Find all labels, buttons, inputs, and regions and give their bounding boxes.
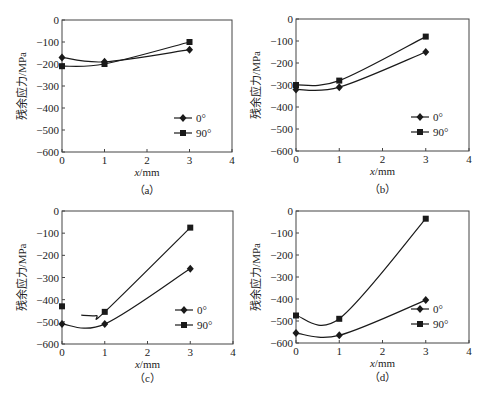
legend-label: 90° [433,318,448,330]
y-tick-label: −300 [270,271,293,283]
panel-label: （c） [134,372,161,384]
legend-item-0deg: 0° [174,112,206,124]
series-0deg [59,46,194,66]
chart-panel-d: 0−100−200−300−400−500−60001234x/mm残余应力/M… [249,205,472,383]
square-marker [336,78,342,84]
square-marker [417,129,423,135]
y-tick-label: −400 [36,294,59,306]
x-axis-label: x/mm [134,358,161,370]
y-tick-label: −100 [36,227,59,239]
y-tick-label: −300 [36,80,59,92]
x-tick-label: 4 [229,154,235,166]
y-tick-label: −500 [270,123,293,135]
y-tick-label: −100 [270,227,293,239]
y-tick-label: −600 [36,146,59,158]
square-marker [102,309,108,315]
y-tick-label: −100 [36,36,59,48]
diamond-marker [181,306,188,314]
square-marker [180,130,186,136]
figure: 0−100−200−300−400−500−60001234x/mm残余应力/M… [0,0,484,399]
y-tick-label: 0 [54,205,60,217]
diamond-marker [336,331,343,339]
x-tick-label: 1 [102,346,108,358]
y-tick-label: −100 [270,35,293,47]
legend-label: 90° [196,127,211,139]
series-line [296,300,426,337]
x-tick-label: 2 [380,153,386,165]
x-tick-label: 0 [59,346,65,358]
diamond-marker [101,320,108,328]
series-0deg [59,265,194,329]
x-tick-label: 4 [466,153,472,165]
x-axis-label: x/mm [133,166,160,178]
square-marker [293,313,299,319]
x-tick-label: 1 [102,154,108,166]
series-90deg [59,225,193,320]
y-tick-label: −300 [270,79,293,91]
diamond-marker [336,83,343,91]
diamond-marker [417,305,424,313]
legend-item-0deg: 0° [411,111,443,123]
y-tick-label: −400 [36,102,59,114]
diamond-marker [186,46,193,54]
diamond-marker [59,320,66,328]
legend-item-90deg: 90° [411,318,448,330]
series-line [296,219,426,326]
diamond-marker [59,53,66,61]
x-axis-label: x/mm [369,165,396,177]
chart-panel-c: 0−100−200−300−400−500−60001234x/mm残余应力/M… [15,205,236,384]
diamond-marker [187,265,194,273]
x-tick-label: 3 [423,345,429,357]
y-tick-label: 0 [54,14,60,26]
y-axis-label: 残余应力/MPa [15,52,28,120]
x-tick-label: 4 [466,345,472,357]
diamond-marker [293,329,300,337]
legend-item-90deg: 90° [174,127,211,139]
square-marker [336,316,342,322]
series-90deg [293,216,429,326]
square-marker [59,303,65,309]
series-line [62,50,190,62]
x-tick-label: 3 [188,346,194,358]
x-tick-label: 2 [145,346,151,358]
panel-label: （b） [369,183,397,195]
x-tick-label: 3 [187,154,193,166]
x-tick-label: 0 [59,154,65,166]
legend-label: 0° [196,112,206,124]
legend-label: 90° [197,319,212,331]
panel-label: （a） [134,184,161,196]
x-tick-label: 3 [423,153,429,165]
panel-label: （d） [369,371,397,383]
y-tick-label: −500 [270,315,293,327]
square-marker [423,34,429,40]
series-0deg [293,296,430,339]
legend-label: 0° [433,111,443,123]
series-90deg [59,39,193,69]
legend-item-90deg: 90° [411,126,448,138]
y-tick-label: −500 [36,316,59,328]
chart-panel-a: 0−100−200−300−400−500−60001234x/mm残余应力/M… [15,14,235,196]
y-tick-label: −600 [270,145,293,157]
x-tick-label: 0 [293,345,299,357]
y-tick-label: 0 [288,205,294,217]
diamond-marker [180,114,187,122]
legend-item-0deg: 0° [175,304,207,316]
y-tick-label: −300 [36,272,59,284]
legend-label: 0° [433,303,443,315]
square-marker [181,322,187,328]
square-marker [293,82,299,88]
y-tick-label: −200 [270,249,293,261]
square-marker [59,63,65,69]
series-line [62,269,190,329]
square-marker [187,225,193,231]
y-axis-label: 残余应力/MPa [15,243,28,311]
x-axis-label: x/mm [369,357,396,369]
y-tick-label: −400 [270,101,293,113]
y-tick-label: −200 [270,57,293,69]
y-tick-label: −200 [36,249,59,261]
y-tick-label: 0 [288,13,294,25]
x-tick-label: 2 [380,345,386,357]
series-line [296,37,426,86]
series-line [62,42,190,66]
legend-label: 90° [433,126,448,138]
